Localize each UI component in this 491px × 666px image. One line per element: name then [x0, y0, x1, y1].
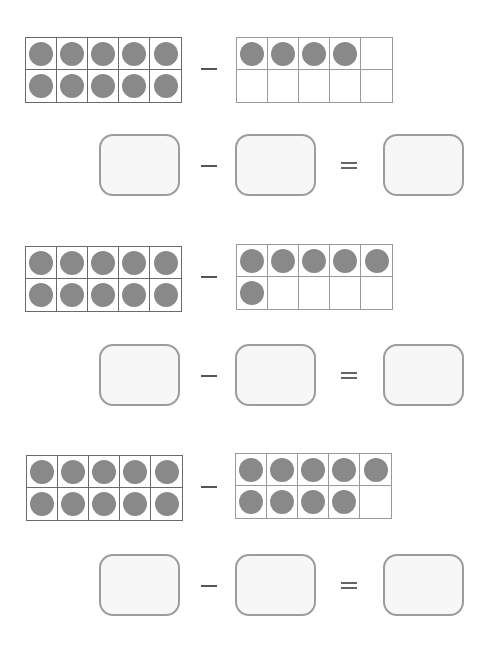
counter-dot-icon [29, 251, 53, 275]
ten-frame-cell [299, 245, 330, 277]
ten-frame-cell [119, 38, 150, 70]
counter-dot-icon [61, 492, 85, 516]
ten-frame-cell [329, 486, 360, 518]
ten-frame-cell [267, 486, 298, 518]
counter-dot-icon [60, 283, 84, 307]
counter-dot-icon [123, 492, 147, 516]
counter-dot-icon [332, 490, 356, 514]
ten-frame-cell [299, 38, 330, 70]
minuend-answer-box[interactable] [99, 554, 180, 616]
ten-frame-cell [89, 488, 120, 520]
ten-frame-cell [58, 456, 89, 488]
ten-frame-cell [298, 486, 329, 518]
counter-dot-icon [92, 492, 116, 516]
ten-frame-cell [57, 38, 88, 70]
ten-frame-cell [57, 279, 88, 311]
ten-frame-cell [330, 277, 361, 309]
counter-dot-icon [60, 251, 84, 275]
ten-frame-cell [119, 247, 150, 279]
ten-frame-cell [88, 38, 119, 70]
ten-frame-cell [299, 277, 330, 309]
ten-frame-cell [150, 70, 181, 102]
counter-dot-icon [271, 249, 295, 273]
ten-frame-cell [330, 38, 361, 70]
ten-frame-cell [57, 247, 88, 279]
counter-dot-icon [240, 249, 264, 273]
ten-frame-cell [298, 454, 329, 486]
counter-dot-icon [239, 490, 263, 514]
counter-dot-icon [333, 42, 357, 66]
counter-dot-icon [301, 458, 325, 482]
ten-frame-cell [57, 70, 88, 102]
ten-frame-cell [268, 277, 299, 309]
counter-dot-icon [123, 460, 147, 484]
counter-dot-icon [122, 283, 146, 307]
counter-dot-icon [240, 42, 264, 66]
counter-dot-icon [61, 460, 85, 484]
minuend-ten-frame [25, 37, 182, 103]
ten-frame-cell [58, 488, 89, 520]
counter-dot-icon [30, 460, 54, 484]
equals-sign-icon [341, 162, 357, 169]
counter-dot-icon [92, 460, 116, 484]
ten-frame-cell [26, 38, 57, 70]
minuend-answer-box[interactable] [99, 344, 180, 406]
difference-answer-box[interactable] [383, 554, 464, 616]
ten-frame-cell [119, 279, 150, 311]
counter-dot-icon [60, 42, 84, 66]
minus-sign-icon [201, 486, 217, 488]
counter-dot-icon [270, 458, 294, 482]
counter-dot-icon [155, 460, 179, 484]
counter-dot-icon [91, 42, 115, 66]
counter-dot-icon [91, 251, 115, 275]
counter-dot-icon [122, 74, 146, 98]
ten-frame-cell [237, 70, 268, 102]
counter-dot-icon [91, 283, 115, 307]
ten-frame-cell [330, 70, 361, 102]
ten-frame-cell [267, 454, 298, 486]
counter-dot-icon [29, 42, 53, 66]
counter-dot-icon [154, 42, 178, 66]
counter-dot-icon [29, 74, 53, 98]
counter-dot-icon [154, 251, 178, 275]
counter-dot-icon [91, 74, 115, 98]
subtrahend-ten-frame [236, 244, 393, 310]
difference-answer-box[interactable] [383, 134, 464, 196]
subtrahend-answer-box[interactable] [235, 344, 316, 406]
ten-frame-cell [361, 277, 392, 309]
minus-sign-icon [201, 165, 217, 167]
minuend-answer-box[interactable] [99, 134, 180, 196]
subtrahend-answer-box[interactable] [235, 134, 316, 196]
counter-dot-icon [155, 492, 179, 516]
minus-sign-icon [201, 585, 217, 587]
ten-frame-cell [120, 456, 151, 488]
counter-dot-icon [122, 42, 146, 66]
ten-frame-cell [361, 70, 392, 102]
minuend-ten-frame [25, 246, 182, 312]
subtrahend-ten-frame [236, 37, 393, 103]
counter-dot-icon [239, 458, 263, 482]
counter-dot-icon [30, 492, 54, 516]
minus-sign-icon [201, 68, 217, 70]
ten-frame-cell [89, 456, 120, 488]
ten-frame-cell [120, 488, 151, 520]
difference-answer-box[interactable] [383, 344, 464, 406]
subtrahend-answer-box[interactable] [235, 554, 316, 616]
ten-frame-cell [299, 70, 330, 102]
counter-dot-icon [365, 249, 389, 273]
ten-frame-cell [236, 454, 267, 486]
ten-frame-cell [268, 70, 299, 102]
ten-frame-cell [361, 38, 392, 70]
minuend-ten-frame [26, 455, 183, 521]
ten-frame-cell [237, 38, 268, 70]
equals-sign-icon [341, 372, 357, 379]
counter-dot-icon [154, 283, 178, 307]
counter-dot-icon [154, 74, 178, 98]
counter-dot-icon [332, 458, 356, 482]
subtrahend-ten-frame [235, 453, 392, 519]
counter-dot-icon [270, 490, 294, 514]
ten-frame-cell [88, 70, 119, 102]
counter-dot-icon [301, 490, 325, 514]
ten-frame-cell [26, 70, 57, 102]
ten-frame-cell [88, 279, 119, 311]
